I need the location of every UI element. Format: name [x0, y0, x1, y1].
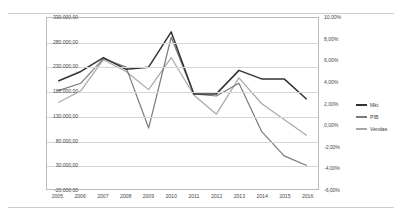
- y-axis-left-tick-label: 330.000,00: [53, 14, 78, 20]
- y-axis-right-tick-label: -4,00%: [324, 165, 340, 171]
- x-axis-tick-label-2009: 2009: [136, 193, 160, 199]
- series-line-vendas: [58, 58, 306, 136]
- x-axis-tick-label-2016: 2016: [296, 193, 320, 199]
- x-axis-tick-label-2012: 2012: [205, 193, 229, 199]
- gridline: [47, 142, 318, 143]
- gridline: [47, 117, 318, 118]
- y-axis-right-tick-label: 10,00%: [324, 14, 341, 20]
- chart-container: 330.000,00280.000,00230.000,00180.000,00…: [0, 0, 402, 219]
- legend-item-mkt[interactable]: Mkt: [356, 100, 387, 110]
- bottom-divider: [8, 207, 394, 208]
- x-axis-tick-label-2007: 2007: [91, 193, 115, 199]
- x-axis-tick-label-2006: 2006: [68, 193, 92, 199]
- y-axis-right-tick-label: -6,00%: [324, 187, 340, 193]
- legend-label: Mkt: [370, 102, 378, 108]
- y-axis-left-tick-label: 30.000,00: [56, 162, 78, 168]
- y-axis-right-tick-label: 2,00%: [324, 101, 338, 107]
- legend-item-vendas[interactable]: Vendas: [356, 124, 387, 134]
- y-axis-left-tick-label: 130.000,00: [53, 113, 78, 119]
- y-axis-right-tick-label: 8,00%: [324, 36, 338, 42]
- legend-swatch-icon: [356, 128, 367, 130]
- y-axis-left-tick-label: 180.000,00: [53, 88, 78, 94]
- y-axis-right-tick-label: 4,00%: [324, 79, 338, 85]
- y-axis-left-tick-label: 280.000,00: [53, 39, 78, 45]
- y-axis-left-tick-label: 80.000,00: [56, 138, 78, 144]
- y-axis-left-tick-label: 230.000,00: [53, 63, 78, 69]
- legend-swatch-icon: [356, 104, 367, 106]
- legend-label: Vendas: [370, 126, 387, 132]
- x-axis-tick-label-2010: 2010: [159, 193, 183, 199]
- gridline: [47, 92, 318, 93]
- y-axis-right-tick-label: 0,00%: [324, 122, 338, 128]
- x-axis-tick-label-2013: 2013: [227, 193, 251, 199]
- x-axis-tick-label-2008: 2008: [114, 193, 138, 199]
- legend-item-pib[interactable]: PIB: [356, 112, 387, 122]
- x-axis-tick-label-2014: 2014: [250, 193, 274, 199]
- gridline: [47, 67, 318, 68]
- plot-area: [46, 17, 319, 190]
- legend-swatch-icon: [356, 116, 367, 118]
- y-axis-right-tick-label: 6,00%: [324, 57, 338, 63]
- legend: MktPIBVendas: [356, 100, 387, 136]
- series-line-pib: [58, 37, 306, 165]
- y-axis-right-tick-label: -2,00%: [324, 144, 340, 150]
- legend-label: PIB: [370, 114, 378, 120]
- gridline: [47, 43, 318, 44]
- x-axis-tick-label-2005: 2005: [45, 193, 69, 199]
- x-axis-tick-label-2015: 2015: [273, 193, 297, 199]
- x-axis-tick-label-2011: 2011: [182, 193, 206, 199]
- gridline: [47, 166, 318, 167]
